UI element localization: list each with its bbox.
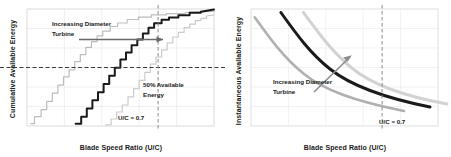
figure-container: Increasing Diameter Turbine 50% Availabl…	[0, 0, 451, 157]
cumulative-energy-plot	[0, 0, 226, 157]
annotation-line-2: Energy	[143, 90, 184, 100]
x-axis-title: Blade Speed Ratio (U/C)	[252, 144, 438, 151]
chart-panel-instantaneous: Increasing Diameter Turbine U/C = 0.7 In…	[226, 0, 451, 157]
annotation-uc-threshold: U/C = 0.7	[118, 113, 144, 123]
annotation-line-1: 50% Available	[143, 80, 184, 90]
annotation-line-1: Increasing Diameter	[273, 77, 332, 87]
annotation-increasing-diameter-turbine: Increasing Diameter Turbine	[273, 77, 332, 96]
annotation-line-2: Turbine	[52, 29, 111, 39]
annotation-uc-threshold: U/C = 0.7	[379, 117, 405, 127]
x-axis-title: Blade Speed Ratio (U/C)	[28, 144, 214, 151]
y-axis-title: Instantaneous Available Energy	[235, 7, 242, 135]
y-axis-title: Cumulative Available Energy	[9, 10, 16, 128]
chart-panel-cumulative: Increasing Diameter Turbine 50% Availabl…	[0, 0, 226, 157]
instantaneous-energy-plot	[226, 0, 451, 157]
annotation-line-1: U/C = 0.7	[118, 113, 144, 123]
annotation-line-1: Increasing Diameter	[52, 19, 111, 29]
annotation-fifty-percent-available-energy: 50% Available Energy	[143, 80, 184, 99]
annotation-increasing-diameter-turbine: Increasing Diameter Turbine	[52, 19, 111, 38]
annotation-line-2: Turbine	[273, 87, 332, 97]
annotation-line-1: U/C = 0.7	[379, 117, 405, 127]
